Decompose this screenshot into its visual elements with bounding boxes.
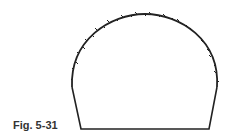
- figure-caption: Fig. 5-31: [13, 119, 58, 131]
- arch-ticks: [71, 12, 219, 82]
- arch-curve: [72, 14, 217, 87]
- walls-and-base: [72, 87, 217, 129]
